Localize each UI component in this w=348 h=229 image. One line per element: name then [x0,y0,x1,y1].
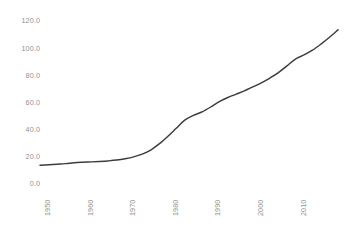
y-axis-tick-label: 40.0 [6,125,40,134]
x-axis-tick-label: 1990 [213,200,222,216]
y-axis-tick-label: 100.0 [6,44,40,53]
plot-background [0,0,348,229]
x-axis-tick-label: 1950 [43,200,52,216]
x-axis-tick-label: 1970 [128,200,137,216]
y-axis-tick-label: 80.0 [6,71,40,80]
y-axis-tick-label: 60.0 [6,98,40,107]
x-axis-tick-label: 2000 [256,200,265,216]
x-axis-tick-label: 2010 [299,200,308,216]
x-axis-tick-label: 1960 [86,200,95,216]
y-axis-tick-label: 20.0 [6,152,40,161]
y-axis-tick-label: 120.0 [6,16,40,25]
plot-area [0,0,348,229]
y-axis-tick-label: 0.0 [6,179,40,188]
line-chart: 0.020.040.060.080.0100.0120.0 1950196019… [0,0,348,229]
x-axis-tick-label: 1980 [171,200,180,216]
